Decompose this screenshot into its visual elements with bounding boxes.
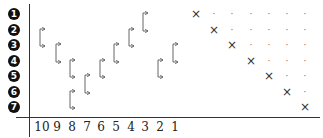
bracket-arrow-icon [100,60,105,77]
marker-grid: ×······×·····×····×···×··×·× [191,7,310,114]
diagram-canvas: 1 2 3 4 5 6 7 10 9 8 7 6 5 4 3 2 1 ×····… [0,0,323,138]
bracket-arrow-icon [56,44,61,62]
cross-marker-icon: × [282,85,292,99]
bracket-group [40,13,178,108]
bracket-arrow-icon [40,29,45,46]
dot-marker-icon: · [231,9,234,19]
dot-marker-icon: · [231,25,234,35]
dot-marker-icon: · [304,56,307,66]
cross-marker-icon: × [191,7,201,21]
dot-marker-icon: · [250,40,253,50]
dot-marker-icon: · [286,25,289,35]
bracket-arrow-icon [114,44,119,62]
dot-marker-icon: · [268,56,271,66]
dot-marker-icon: · [286,9,289,19]
cross-marker-icon: × [300,100,310,114]
cross-marker-icon: × [264,69,274,83]
dot-marker-icon: · [286,71,289,81]
dot-marker-icon: · [304,71,307,81]
bracket-arrow-icon [70,60,75,77]
dot-marker-icon: · [304,25,307,35]
dot-marker-icon: · [213,9,216,19]
bracket-arrow-icon [129,29,134,46]
dot-marker-icon: · [286,40,289,50]
bracket-arrow-icon [158,60,163,77]
bracket-arrow-icon [85,75,90,93]
dot-marker-icon: · [268,25,271,35]
dot-marker-icon: · [250,9,253,19]
bracket-arrow-icon [143,13,148,31]
dot-marker-icon: · [268,40,271,50]
cross-marker-icon: × [246,54,256,68]
cross-marker-icon: × [209,23,219,37]
dot-marker-icon: · [304,9,307,19]
bracket-and-grid-layer: ×······×·····×····×···×··×·× [0,0,323,138]
bracket-arrow-icon [70,91,75,108]
dot-marker-icon: · [304,87,307,97]
dot-marker-icon: · [250,25,253,35]
cross-marker-icon: × [227,38,237,52]
dot-marker-icon: · [304,40,307,50]
bracket-arrow-icon [173,44,178,62]
dot-marker-icon: · [268,9,271,19]
dot-marker-icon: · [286,56,289,66]
